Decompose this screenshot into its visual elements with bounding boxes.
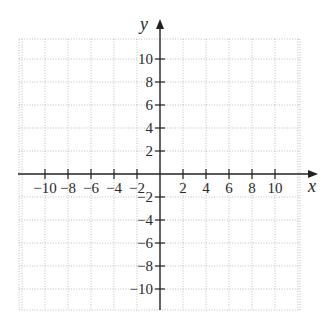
y-tick-label: −4 [137, 212, 153, 228]
x-tick-label: −4 [106, 180, 122, 196]
x-axis-label: x [307, 176, 316, 196]
y-tick-label: 4 [146, 120, 154, 136]
coordinate-plane: x y −10−8−6−4−2246810108642−2−4−6−8−10 [0, 0, 323, 325]
y-tick-label: 6 [146, 97, 154, 113]
x-tick-label: 4 [202, 180, 210, 196]
x-tick-label: 10 [268, 180, 283, 196]
y-tick-label: −8 [137, 258, 153, 274]
x-tick-label: 2 [179, 180, 187, 196]
x-tick-label: −8 [60, 180, 76, 196]
y-axis-arrow-icon [156, 19, 164, 29]
y-tick-label: −6 [137, 235, 153, 251]
y-tick-label: −2 [137, 189, 153, 205]
y-tick-label: 8 [146, 74, 154, 90]
x-tick-label: 6 [225, 180, 233, 196]
y-tick-label: 10 [138, 51, 153, 67]
x-tick-label: −6 [83, 180, 99, 196]
y-axis-label: y [138, 14, 148, 34]
x-tick-label: 8 [248, 180, 256, 196]
y-tick-label: −10 [130, 281, 153, 297]
y-tick-label: 2 [146, 143, 154, 159]
x-tick-label: −10 [33, 180, 56, 196]
